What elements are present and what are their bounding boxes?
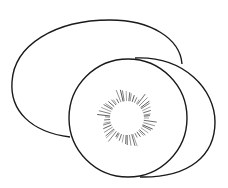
kiwi-drawing <box>0 0 228 188</box>
kiwi-illustration: Kiwi fruit line drawing <box>0 0 228 188</box>
slice-face-outline <box>69 59 187 177</box>
